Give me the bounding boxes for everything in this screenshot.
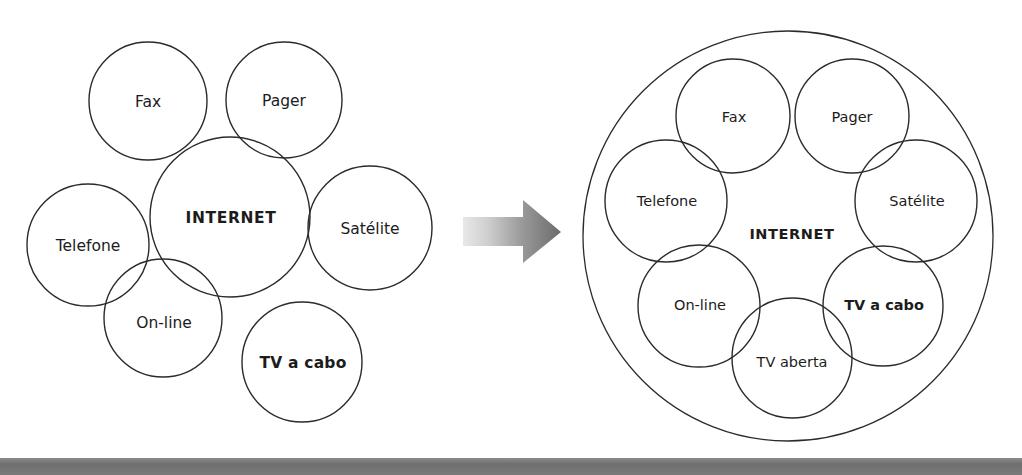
diagram-left: Fax Pager Telefone INTERNET Satélite On-… — [27, 42, 432, 422]
label-tvaberta-right: TV aberta — [756, 354, 828, 370]
diagram-right: Fax Pager Telefone Satélite INTERNET On-… — [583, 31, 993, 441]
label-pager-left: Pager — [262, 92, 307, 110]
diagram-canvas: Fax Pager Telefone INTERNET Satélite On-… — [0, 0, 1022, 475]
label-online-left: On-line — [136, 314, 192, 332]
label-telefone-left: Telefone — [55, 237, 121, 255]
label-telefone-right: Telefone — [636, 193, 697, 209]
diagram-page: Fax Pager Telefone INTERNET Satélite On-… — [0, 0, 1022, 475]
label-satelite-left: Satélite — [340, 220, 399, 238]
label-tvacabo-right: TV a cabo — [844, 297, 924, 313]
label-satelite-right: Satélite — [889, 193, 944, 209]
label-online-right: On-line — [674, 297, 726, 313]
label-fax-left: Fax — [135, 93, 161, 111]
label-fax-right: Fax — [722, 109, 747, 125]
label-pager-right: Pager — [831, 109, 872, 125]
bottom-bar — [0, 458, 1022, 475]
transition-arrow — [463, 200, 561, 263]
label-internet-right: INTERNET — [749, 226, 834, 242]
arrow-right-icon — [463, 200, 561, 263]
label-tvacabo-left: TV a cabo — [259, 354, 346, 372]
label-internet-left: INTERNET — [186, 209, 277, 227]
